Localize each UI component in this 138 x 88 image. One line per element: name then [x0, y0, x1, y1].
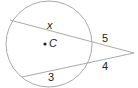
label-x: x: [47, 20, 53, 31]
secant-diagram: x C 5 4 3: [0, 0, 138, 88]
label-outer-top: 5: [102, 33, 108, 44]
top-secant: [10, 20, 134, 53]
diagram-figure: [0, 0, 138, 88]
label-center: C: [49, 38, 57, 49]
bottom-secant: [22, 53, 134, 77]
center-point: [43, 42, 46, 45]
label-inner-bottom: 3: [48, 72, 54, 83]
label-outer-bottom: 4: [102, 61, 108, 72]
